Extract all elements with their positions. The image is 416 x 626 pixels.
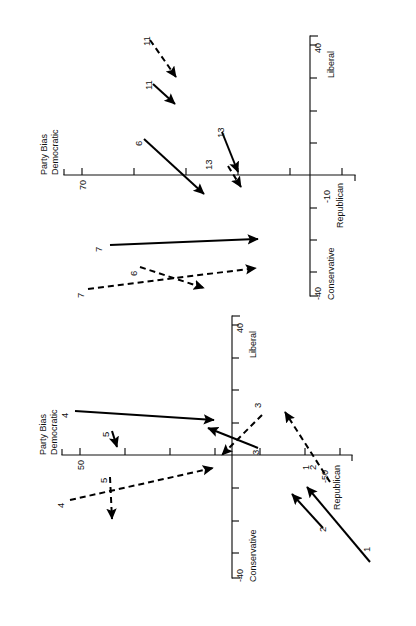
top-conservative-label: Conservative bbox=[326, 247, 336, 300]
vector-label-6-solid: 6 bbox=[133, 141, 144, 146]
top-liberal-label: Liberal bbox=[326, 51, 336, 78]
vector-6-dashed bbox=[140, 267, 204, 288]
vector-label-7-dashed: 7 bbox=[75, 293, 86, 298]
vector-label-2-dashed: 2 bbox=[307, 465, 318, 470]
vector-2-dashed bbox=[285, 412, 330, 482]
vector-label-13-b: 13 bbox=[203, 159, 214, 170]
vector-4-dashed bbox=[70, 468, 213, 500]
bottom-panel: Party Bias Democratic Republican Liberal… bbox=[38, 316, 372, 582]
top-tick-neg10: -10 bbox=[322, 190, 332, 203]
top-tick-40: 40 bbox=[313, 43, 323, 53]
vector-5-dashed bbox=[110, 477, 112, 519]
bottom-tick-40: 40 bbox=[235, 323, 245, 333]
vector-label-1-solid: 1 bbox=[361, 547, 372, 552]
bottom-tick-50: 50 bbox=[76, 460, 86, 470]
vector-label-4-dashed: 4 bbox=[55, 503, 66, 508]
bottom-republican-label: Republican bbox=[332, 465, 342, 510]
vector-label-5-solid: 5 bbox=[100, 432, 111, 437]
bottom-conservative-label: Conservative bbox=[248, 529, 258, 582]
vector-label-11-a: 11 bbox=[141, 36, 152, 46]
top-democratic-label: Democratic bbox=[50, 129, 60, 175]
vector-label-13-a: 13 bbox=[215, 127, 226, 138]
vector-6-solid bbox=[144, 139, 204, 194]
vector-7-solid bbox=[110, 239, 258, 245]
vector-label-5-dashed: 5 bbox=[98, 478, 109, 483]
top-panel: Party Bias Democratic Republican Liberal… bbox=[39, 36, 355, 300]
bottom-democratic-label: Democratic bbox=[49, 409, 59, 455]
top-republican-label: Republican bbox=[335, 183, 345, 228]
vector-11-solid bbox=[153, 84, 175, 104]
vector-plot-figure: Party Bias Democratic Republican Liberal… bbox=[0, 0, 416, 626]
vector-label-3-dashed: 3 bbox=[252, 403, 263, 408]
vector-label-11-b: 11 bbox=[143, 80, 154, 90]
bottom-party-bias-label: Party Bias bbox=[38, 413, 48, 455]
top-panel-ideology-axis bbox=[310, 36, 318, 296]
vector-label-6-dashed: 6 bbox=[128, 271, 139, 276]
vector-label-4-solid: 4 bbox=[59, 413, 70, 418]
vector-4-solid bbox=[75, 411, 214, 420]
vector-label-7-solid: 7 bbox=[93, 247, 104, 252]
vector-label-2-solid: 2 bbox=[317, 527, 328, 532]
top-party-bias-label: Party Bias bbox=[39, 133, 49, 175]
vector-11-dashed bbox=[150, 40, 176, 77]
top-tick-70: 70 bbox=[78, 180, 88, 190]
vector-label-3-solid: 3 bbox=[250, 450, 261, 455]
bottom-liberal-label: Liberal bbox=[248, 331, 258, 358]
vector-5-solid bbox=[112, 431, 117, 447]
figure-canvas: Party Bias Democratic Republican Liberal… bbox=[0, 0, 416, 626]
bottom-panel-party-bias-axis bbox=[62, 448, 352, 461]
bottom-panel-ideology-axis bbox=[232, 316, 240, 578]
vector-13-dashed bbox=[228, 166, 241, 187]
bottom-tick-neg40: -40 bbox=[235, 569, 245, 582]
top-tick-neg40: -40 bbox=[313, 287, 323, 300]
